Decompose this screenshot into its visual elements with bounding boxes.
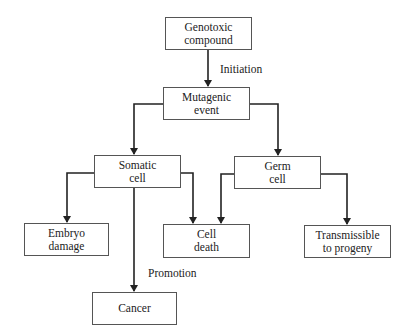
node-label-line2: compound xyxy=(184,34,233,47)
node-transmissible-to-progeny: Transmissible to progeny xyxy=(304,225,391,258)
node-label-line1: Germ xyxy=(264,160,290,173)
node-label-line1: Embryo xyxy=(48,227,85,240)
edge-somatic-to-celldeath xyxy=(181,173,193,223)
node-germ-cell: Germ cell xyxy=(234,156,321,189)
node-cancer: Cancer xyxy=(92,292,177,325)
node-embryo-damage: Embryo damage xyxy=(24,223,109,256)
node-label-line2: event xyxy=(194,104,219,117)
node-label-line2: damage xyxy=(49,240,85,253)
node-label-line2: death xyxy=(194,241,219,254)
edge-mutagenic-to-somatic xyxy=(134,104,163,154)
node-label-line2: cell xyxy=(269,173,286,186)
node-label-line1: Somatic xyxy=(119,159,157,172)
edge-germ-to-transmissible xyxy=(321,174,347,224)
node-label-line2: to progeny xyxy=(323,242,373,255)
edge-germ-to-celldeath xyxy=(221,174,234,223)
node-label-line1: Cell xyxy=(197,228,216,241)
node-mutagenic-event: Mutagenic event xyxy=(163,87,250,120)
node-cell-death: Cell death xyxy=(163,224,250,258)
edge-mutagenic-to-germ xyxy=(250,104,278,155)
node-label-line1: Cancer xyxy=(118,302,151,315)
node-genotoxic-compound: Genotoxic compound xyxy=(165,17,252,50)
node-label-line2: cell xyxy=(129,172,146,185)
node-somatic-cell: Somatic cell xyxy=(94,155,181,188)
node-label-line1: Mutagenic xyxy=(182,91,231,104)
genotoxicity-flowchart: Genotoxic compound Initiation Mutagenic … xyxy=(0,0,412,334)
edge-label-promotion: Promotion xyxy=(148,267,197,280)
node-label-line1: Genotoxic xyxy=(185,21,233,34)
edge-somatic-to-embryo xyxy=(67,173,94,222)
edge-label-initiation: Initiation xyxy=(220,63,262,76)
node-label-line1: Transmissible xyxy=(315,229,379,242)
connector-lines xyxy=(0,0,412,334)
